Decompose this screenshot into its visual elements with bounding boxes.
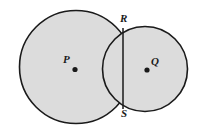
geometry-figure: P Q R S	[0, 0, 198, 133]
label-intersection-s: S	[121, 108, 127, 119]
center-point-q-dot	[144, 67, 149, 72]
label-intersection-r: R	[120, 13, 127, 24]
center-point-p-dot	[72, 67, 77, 72]
label-center-q: Q	[151, 56, 159, 67]
label-center-p: P	[63, 54, 70, 65]
geometry-canvas	[0, 0, 198, 133]
